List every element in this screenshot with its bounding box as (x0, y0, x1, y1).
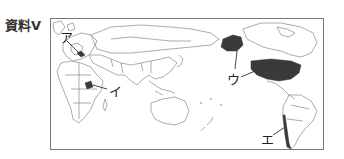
label-a: ア (60, 27, 73, 46)
figure-title: 資料Ⅴ (5, 15, 41, 34)
label-i: イ (109, 81, 122, 100)
world-map-svg (51, 19, 325, 151)
label-e: エ (261, 129, 274, 148)
world-map: ア イ ウ エ (50, 18, 324, 150)
label-u: ウ (227, 69, 240, 88)
